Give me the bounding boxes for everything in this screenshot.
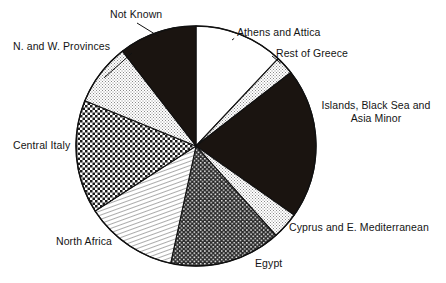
slice-label-athens-and-attica: Athens and Attica [237,26,320,39]
slice-label-islands-line1: Islands, Black Sea and [321,99,430,111]
slice-label-north-africa: North Africa [56,235,112,248]
pie-chart-figure: Athens and Attica Rest of Greece Islands… [0,0,446,283]
leader-line-not-known [137,23,159,37]
slice-label-islands-black-sea-asia-minor: Islands, Black Sea and Asia Minor [310,99,442,124]
slice-label-rest-of-greece: Rest of Greece [276,47,348,60]
slice-label-egypt: Egypt [255,257,282,270]
slice-label-n-and-w-provinces: N. and W. Provinces [13,40,110,53]
slice-label-cyprus-and-e-mediterranean: Cyprus and E. Mediterranean [289,221,429,234]
slice-label-islands-line2: Asia Minor [351,112,402,124]
slice-label-not-known: Not Known [110,8,162,21]
slice-label-central-italy: Central Italy [13,139,70,152]
